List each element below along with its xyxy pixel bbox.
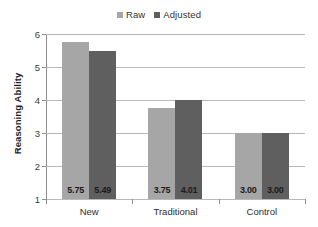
- y-tick-label: 5: [35, 62, 40, 73]
- x-tick-label: New: [80, 206, 99, 217]
- bar-value-label: 3.00: [262, 185, 289, 195]
- legend-label-adjusted: Adjusted: [163, 10, 201, 20]
- bar-raw: 3.00: [235, 133, 262, 199]
- legend-swatch-raw: [117, 12, 123, 18]
- y-tick-label: 2: [35, 161, 40, 172]
- plot-area: 1234565.755.493.754.013.003.00: [46, 34, 305, 199]
- bar-raw: 5.75: [62, 42, 89, 199]
- x-tick-label: Traditional: [153, 206, 197, 217]
- bar-adjusted: 4.01: [175, 100, 202, 199]
- bar-value-label: 5.49: [89, 185, 116, 195]
- bar-chart: Raw Adjusted Reasoning Ability 1234565.7…: [0, 0, 318, 227]
- bar-value-label: 3.00: [235, 185, 262, 195]
- x-tick-mark: [305, 199, 306, 204]
- x-tick-mark: [46, 199, 47, 204]
- bar-raw: 3.75: [148, 108, 175, 199]
- y-tick-label: 6: [35, 29, 40, 40]
- legend-entry-raw: Raw: [117, 10, 145, 20]
- bar-value-label: 4.01: [175, 185, 202, 195]
- bar-value-label: 3.75: [148, 185, 175, 195]
- bar-adjusted: 3.00: [262, 133, 289, 199]
- y-tick-label: 1: [35, 194, 40, 205]
- y-tick-label: 4: [35, 95, 40, 106]
- bar-adjusted: 5.49: [89, 51, 116, 199]
- legend-swatch-adjusted: [154, 12, 160, 18]
- bar-group: 5.755.49: [46, 34, 132, 199]
- bar-value-label: 5.75: [62, 185, 89, 195]
- legend-entry-adjusted: Adjusted: [154, 10, 201, 20]
- y-axis-title: Reasoning Ability: [12, 54, 23, 174]
- y-tick-label: 3: [35, 128, 40, 139]
- x-tick-mark: [219, 199, 220, 204]
- chart-legend: Raw Adjusted: [0, 10, 318, 20]
- bar-group: 3.003.00: [219, 34, 305, 199]
- x-tick-mark: [132, 199, 133, 204]
- x-tick-label: Control: [247, 206, 278, 217]
- legend-label-raw: Raw: [126, 10, 145, 20]
- gridline: [46, 199, 305, 200]
- bar-group: 3.754.01: [132, 34, 218, 199]
